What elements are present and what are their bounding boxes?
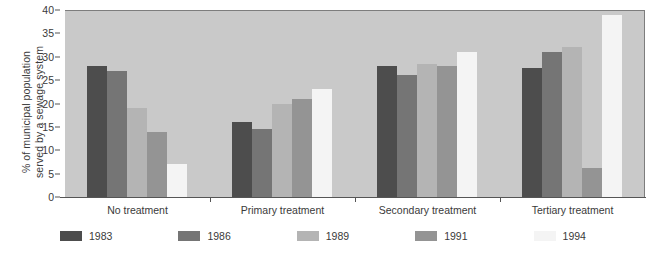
legend-item[interactable]: 1983 (60, 230, 178, 242)
x-axis-category-label: Primary treatment (241, 204, 324, 216)
bar (582, 168, 602, 197)
x-axis-category-label: Secondary treatment (379, 204, 476, 216)
x-axis-tick-mark (500, 197, 501, 202)
chart-legend: 19831986198919911994 (60, 228, 652, 244)
bar-chart: % of municipal population served by a se… (0, 0, 660, 253)
y-tick-mark (55, 33, 60, 34)
legend-swatch-icon (534, 231, 556, 241)
plot-area (65, 10, 645, 197)
y-axis-ticks: 0510152025303540 (30, 10, 60, 197)
bar (147, 132, 167, 197)
bar (562, 47, 582, 197)
y-tick-mark (55, 56, 60, 57)
y-tick-mark (55, 10, 60, 11)
y-tick-label: 15 (42, 121, 54, 133)
y-tick-mark (55, 126, 60, 127)
bar-group (499, 11, 644, 197)
legend-label: 1983 (89, 230, 112, 242)
bar-group (210, 11, 355, 197)
bar (602, 15, 622, 197)
y-tick-label: 40 (42, 4, 54, 16)
bar-groups (65, 11, 644, 197)
y-tick-label: 20 (42, 98, 54, 110)
y-tick-label: 30 (42, 51, 54, 63)
y-tick-label: 25 (42, 74, 54, 86)
bar (312, 89, 332, 197)
bar (457, 52, 477, 197)
y-tick-mark (55, 80, 60, 81)
x-axis-tick-mark (210, 197, 211, 202)
legend-label: 1991 (444, 230, 467, 242)
legend-swatch-icon (297, 231, 319, 241)
legend-label: 1989 (326, 230, 349, 242)
bar (397, 75, 417, 197)
legend-swatch-icon (178, 231, 200, 241)
bar (542, 52, 562, 197)
bar (292, 99, 312, 197)
bar (87, 66, 107, 197)
x-axis-tick-mark (355, 197, 356, 202)
legend-item[interactable]: 1986 (178, 230, 296, 242)
bar-group (65, 11, 210, 197)
bar (522, 68, 542, 197)
bar (127, 108, 147, 197)
bar (107, 71, 127, 197)
legend-label: 1994 (563, 230, 586, 242)
y-tick-mark (55, 103, 60, 104)
x-axis-line (60, 197, 646, 198)
legend-swatch-icon (60, 231, 82, 241)
y-tick-mark (55, 173, 60, 174)
bar (377, 66, 397, 197)
bar (437, 66, 457, 197)
x-axis-category-label: No treatment (107, 204, 168, 216)
y-tick-label: 5 (48, 168, 54, 180)
legend-item[interactable]: 1991 (415, 230, 533, 242)
x-axis-category-label: Tertiary treatment (532, 204, 614, 216)
bar (167, 164, 187, 197)
bar-group (355, 11, 500, 197)
y-tick-label: 35 (42, 27, 54, 39)
bar (417, 64, 437, 197)
legend-label: 1986 (207, 230, 230, 242)
bar (272, 104, 292, 198)
legend-swatch-icon (415, 231, 437, 241)
y-tick-label: 10 (42, 144, 54, 156)
legend-item[interactable]: 1989 (297, 230, 415, 242)
y-tick-mark (55, 150, 60, 151)
bar (252, 129, 272, 197)
legend-item[interactable]: 1994 (534, 230, 652, 242)
y-tick-label: 0 (48, 191, 54, 203)
bar (232, 122, 252, 197)
